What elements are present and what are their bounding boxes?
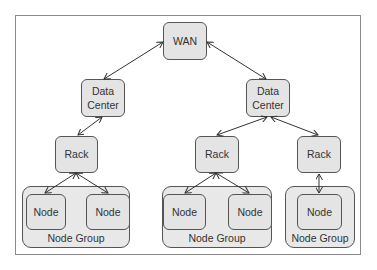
arrow-wan-dc2	[207, 42, 266, 79]
connector-arrows	[0, 0, 377, 270]
arrow-dc2-rack3	[271, 117, 318, 135]
arrow-wan-dc1	[104, 42, 163, 79]
arrow-rack2-node4	[216, 173, 249, 193]
arrow-rack2-node3	[185, 173, 216, 193]
arrow-dc1-rack1	[78, 117, 102, 135]
arrow-rack1-node2	[76, 173, 108, 193]
arrow-dc2-rack2	[217, 117, 267, 135]
arrow-rack1-node1	[45, 173, 76, 193]
